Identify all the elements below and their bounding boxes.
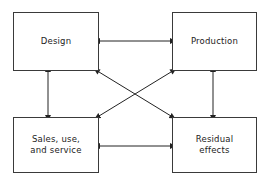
- node-residual-label: Residual effects: [196, 134, 234, 156]
- node-production[interactable]: Production: [172, 12, 257, 71]
- node-sales-label: Sales, use, and service: [30, 134, 81, 156]
- node-residual-effects[interactable]: Residual effects: [172, 117, 257, 173]
- node-sales-use-service[interactable]: Sales, use, and service: [13, 117, 99, 173]
- node-production-label: Production: [191, 36, 238, 47]
- node-design-label: Design: [41, 36, 72, 47]
- node-design[interactable]: Design: [13, 12, 99, 71]
- diagram-canvas: Design Production Sales, use, and servic…: [0, 0, 268, 181]
